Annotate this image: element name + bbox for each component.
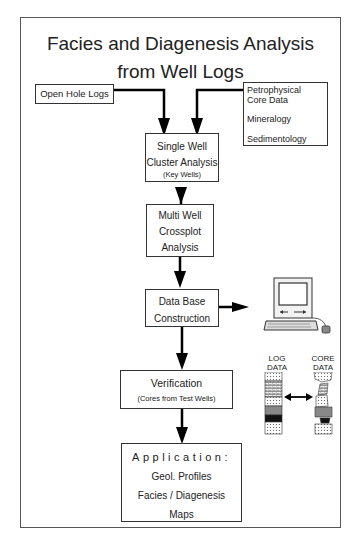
multi-well-line: Analysis: [147, 240, 213, 256]
multi-well-box: Multi Well Crossplot Analysis: [146, 204, 214, 257]
multi-well-line: Crossplot: [147, 224, 213, 240]
multi-well-line: Multi Well: [147, 208, 213, 224]
application-line: Geol. Profiles: [122, 467, 241, 486]
verification-note: (Cores from Test Wells): [121, 394, 232, 403]
application-box: Application: Geol. Profiles Facies / Dia…: [121, 443, 242, 522]
single-well-note: (Key Wells): [146, 171, 218, 179]
data-base-line: Construction: [146, 310, 218, 327]
log-data-label-line: DATA: [264, 363, 290, 372]
log-core-comparison-icon: [260, 372, 342, 436]
open-hole-logs-box: Open Hole Logs: [35, 84, 114, 104]
verification-box: Verification (Cores from Test Wells): [120, 370, 233, 409]
core-data-box: Petrophysical Core Data Mineralogy Sedim…: [243, 82, 328, 146]
application-line: Facies / Diagenesis: [122, 486, 241, 505]
core-data-line: Petrophysical: [247, 85, 324, 95]
core-data-line: Core Data: [247, 95, 324, 105]
core-data-label: CORE DATA: [309, 354, 337, 372]
core-data-label-line: DATA: [309, 363, 337, 372]
single-well-line: Cluster Analysis: [146, 155, 218, 171]
log-data-label: LOG DATA: [264, 354, 290, 372]
core-data-label-line: CORE: [309, 354, 337, 363]
data-base-line: Data Base: [146, 293, 218, 310]
application-line: Maps: [122, 505, 241, 524]
core-data-line: Mineralogy: [247, 114, 324, 124]
single-well-box: Single Well Cluster Analysis (Key Wells): [145, 133, 219, 182]
computer-icon: [258, 277, 338, 342]
log-data-label-line: LOG: [264, 354, 290, 363]
core-data-line: Sedimentology: [247, 134, 324, 144]
application-title: Application:: [122, 448, 241, 467]
single-well-line: Single Well: [146, 139, 218, 155]
data-base-box: Data Base Construction: [145, 289, 219, 327]
verification-title: Verification: [121, 376, 232, 390]
open-hole-logs-label: Open Hole Logs: [40, 88, 109, 99]
